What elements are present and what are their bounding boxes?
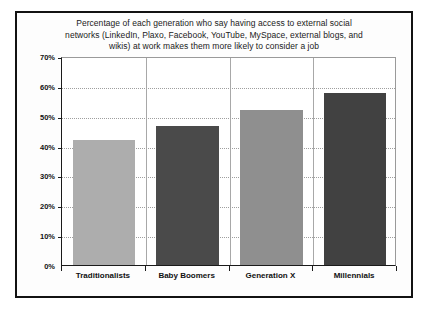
chart-title-line-2: networks (LinkedIn, Plaxo, Facebook, You… [27,30,401,42]
x-axis-category-label: Generation X [245,271,295,280]
x-axis-category-label: Traditionalists [76,271,130,280]
chart-title-line-1: Percentage of each generation who say ha… [27,18,401,30]
y-axis-tick-labels: 0%10%20%30%40%50%60%70% [17,57,61,266]
y-axis-tick-label: 50% [40,112,55,121]
bar-series [62,58,395,265]
bar [324,93,386,265]
y-axis-tick-label: 70% [40,53,55,62]
chart-title-line-3: wikis) at work makes them more likely to… [27,41,401,53]
y-axis-tick-label: 0% [44,262,55,271]
bar [73,140,135,265]
chart-title: Percentage of each generation who say ha… [27,18,401,53]
y-axis-tick-label: 20% [40,202,55,211]
y-axis-tick-label: 60% [40,82,55,91]
y-axis-tick-label: 10% [40,232,55,241]
bar [156,126,218,265]
chart-frame: Percentage of each generation who say ha… [15,11,413,298]
plot-wrapper: 0%10%20%30%40%50%60%70% TraditionalistsB… [17,57,411,296]
y-axis-tick-label: 40% [40,142,55,151]
y-axis-tick-label: 30% [40,172,55,181]
plot-area [61,57,396,266]
x-axis-category-label: Millennials [334,271,375,280]
x-axis-tick-mark [396,266,397,271]
x-axis-category-labels: TraditionalistsBaby BoomersGeneration XM… [61,271,396,287]
x-axis-category-label: Baby Boomers [158,271,214,280]
bar [240,110,302,265]
